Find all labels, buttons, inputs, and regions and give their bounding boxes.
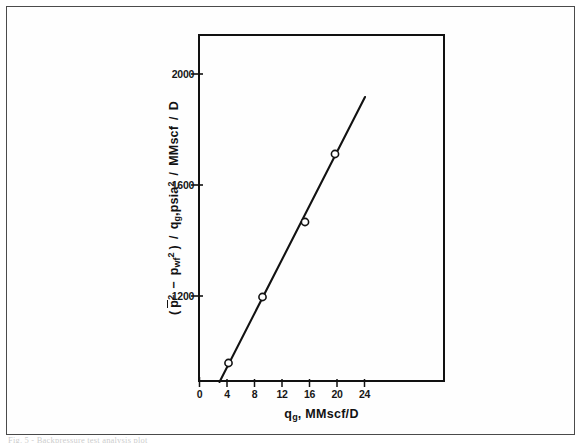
y-title-mmscf: MMscf: [167, 126, 181, 166]
x-axis-title: qg, MMscf/D: [198, 407, 445, 422]
y-title-comma: ,: [167, 212, 181, 216]
x-axis-ticks: [200, 377, 365, 387]
y-title-qg: q: [167, 222, 181, 230]
y-title-psia-exponent: 2: [166, 182, 176, 187]
y-title-d: D: [167, 101, 181, 110]
x-tick-label-4: 4: [224, 388, 230, 400]
y-title-slash-3: /: [167, 116, 181, 120]
y-title-slash-2: /: [167, 172, 181, 176]
x-tick-label-24: 24: [359, 388, 370, 400]
data-point-3: [301, 218, 308, 225]
x-axis-title-rest: , MMscf/D: [298, 407, 359, 421]
fit-line: [220, 97, 366, 382]
y-title-minus: −: [167, 281, 181, 289]
figure-page: 2000 1600 1200 0 4 8 12 16 20 24 qg, MMs…: [0, 0, 583, 443]
x-axis-title-symbol: q: [284, 407, 292, 421]
x-tick-label-8: 8: [252, 388, 258, 400]
chart-figure: 2000 1600 1200 0 4 8 12 16 20 24 qg, MMs…: [6, 6, 575, 435]
y-title-psia: psia: [167, 187, 181, 213]
y-title-open-paren: (: [167, 311, 181, 315]
y-title-slash-1: /: [167, 235, 181, 239]
y-title-pbar: p: [167, 300, 181, 308]
clipped-caption-text: Fig. 5 - Backpressure test analysis plot: [8, 436, 575, 443]
x-tick-label-group: 0 4 8 12 16 20 24: [6, 388, 575, 404]
data-point-1: [225, 359, 232, 366]
x-tick-label-20: 20: [331, 388, 342, 400]
y-title-pbar-exponent: 2: [166, 295, 176, 300]
data-point-2: [259, 293, 266, 300]
y-title-close-paren: ): [167, 245, 181, 249]
x-tick-label-16: 16: [304, 388, 315, 400]
data-point-4: [331, 150, 338, 157]
y-title-pwf-exponent: 2: [166, 252, 176, 257]
y-title-pwf: p: [167, 267, 181, 275]
plot-canvas: [6, 6, 575, 435]
y-axis-title: (p2−pwf2)/qg,psia2/MMscf/D: [166, 34, 186, 382]
y-title-qg-subscript: g: [172, 216, 182, 222]
x-tick-label-12: 12: [276, 388, 287, 400]
y-title-pwf-subscript: wf: [172, 257, 182, 267]
x-tick-label-0: 0: [197, 388, 203, 400]
